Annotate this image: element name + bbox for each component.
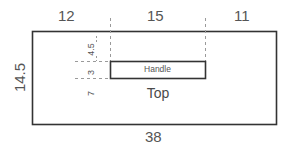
dimension-inner-offset-top: 4.5 — [87, 39, 96, 61]
dimension-top-middle: 15 — [147, 8, 164, 23]
dimension-top-left: 12 — [58, 8, 75, 23]
top-plate-label: Top — [133, 86, 183, 100]
dimension-top-right: 11 — [234, 8, 250, 23]
handle-label: Handle — [110, 65, 205, 74]
dimension-inner-offset-bottom: 7 — [87, 84, 96, 104]
dimension-inner-height: 3 — [87, 63, 96, 83]
dimension-overall-height: 14.5 — [12, 56, 27, 100]
dimension-overall-width: 38 — [145, 129, 162, 144]
technical-drawing: 12 15 11 38 14.5 4.5 3 7 Handle Top — [0, 0, 290, 153]
